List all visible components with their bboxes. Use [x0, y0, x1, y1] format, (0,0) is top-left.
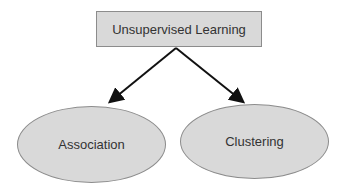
node-label: Association [58, 137, 124, 152]
root-label: Unsupervised Learning [112, 22, 246, 37]
arrow-to-clustering [176, 48, 242, 101]
root-node: Unsupervised Learning [96, 11, 262, 47]
node-clustering: Clustering [180, 104, 329, 179]
arrow-to-association [111, 48, 176, 101]
node-association: Association [17, 106, 166, 183]
node-label: Clustering [225, 134, 284, 149]
